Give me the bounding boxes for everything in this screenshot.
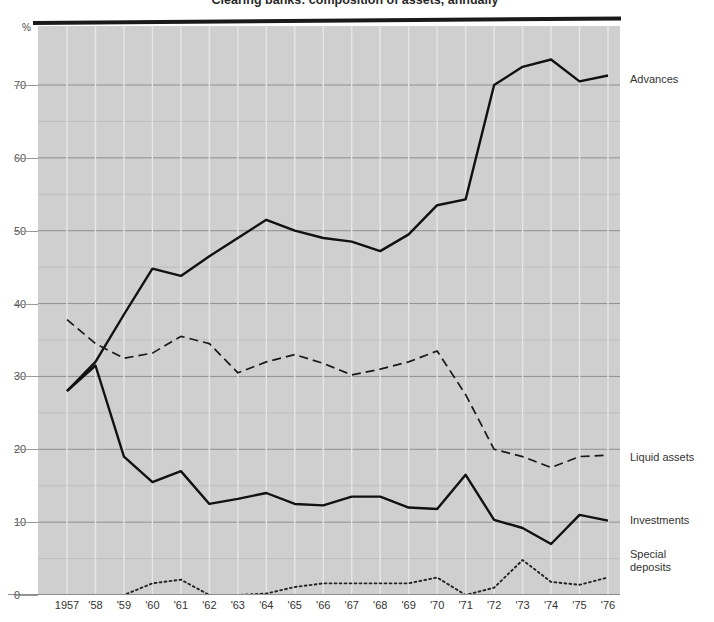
x-axis-tick-label: '74 bbox=[544, 599, 558, 611]
y-axis-tick bbox=[14, 85, 38, 86]
series-lines bbox=[67, 60, 608, 596]
y-axis-tick bbox=[14, 304, 38, 305]
series-line-special-deposits bbox=[67, 560, 608, 595]
series-line-advances bbox=[67, 60, 608, 392]
x-axis-tick-label: '67 bbox=[345, 599, 359, 611]
y-axis-unit-label: % bbox=[22, 22, 31, 33]
y-axis-tick bbox=[14, 595, 38, 596]
x-axis-tick-label: '58 bbox=[88, 599, 102, 611]
y-axis-tick bbox=[14, 522, 38, 523]
x-axis-tick-label: '59 bbox=[117, 599, 131, 611]
series-label-special-deposits: Special deposits bbox=[630, 548, 671, 574]
x-axis-tick-label: '61 bbox=[174, 599, 188, 611]
x-axis-tick-label: 1957 bbox=[55, 599, 79, 611]
x-axis-tick-label: '63 bbox=[231, 599, 245, 611]
chart-canvas bbox=[38, 26, 620, 595]
series-line-investments bbox=[67, 366, 608, 545]
y-axis-tick bbox=[14, 449, 38, 450]
vertical-gridlines bbox=[67, 26, 608, 595]
series-label-liquid-assets: Liquid assets bbox=[630, 451, 694, 464]
y-axis-tick bbox=[14, 231, 38, 232]
x-axis-tick-label: '70 bbox=[430, 599, 444, 611]
series-label-advances: Advances bbox=[630, 73, 678, 86]
x-axis-tick-label: '76 bbox=[601, 599, 615, 611]
y-axis-tick bbox=[14, 376, 38, 377]
plot-area bbox=[38, 26, 620, 595]
x-axis-tick-label: '68 bbox=[373, 599, 387, 611]
x-axis-baseline bbox=[8, 594, 620, 595]
y-axis-tick bbox=[14, 158, 38, 159]
chart-page: Clearing banks: composition of assets, a… bbox=[0, 0, 714, 622]
x-axis-tick-label: '72 bbox=[487, 599, 501, 611]
x-axis-tick-label: '62 bbox=[202, 599, 216, 611]
chart-title: Clearing banks: composition of assets, a… bbox=[120, 0, 590, 8]
x-axis-tick-label: '66 bbox=[316, 599, 330, 611]
series-label-investments: Investments bbox=[630, 514, 689, 527]
x-axis-tick-label: '73 bbox=[515, 599, 529, 611]
series-line-liquid-assets bbox=[67, 320, 608, 468]
x-axis-tick-label: '75 bbox=[572, 599, 586, 611]
x-axis-tick-label: '65 bbox=[288, 599, 302, 611]
gridlines bbox=[38, 85, 620, 559]
chart-top-rule bbox=[33, 16, 621, 25]
x-axis-tick-label: '69 bbox=[402, 599, 416, 611]
x-axis-tick-label: '64 bbox=[259, 599, 273, 611]
x-axis-tick-label: '60 bbox=[145, 599, 159, 611]
x-axis-tick-label: '71 bbox=[458, 599, 472, 611]
